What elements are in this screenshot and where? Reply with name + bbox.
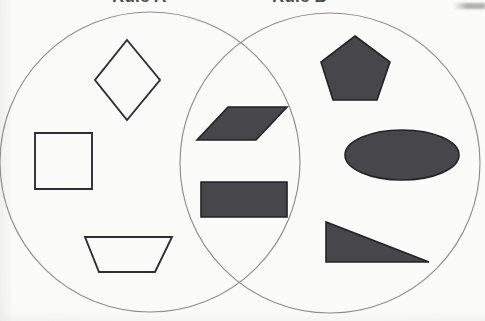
shape-trapezoid[interactable] — [85, 237, 172, 272]
shape-rhombus[interactable] — [95, 40, 160, 120]
shape-parallelogram[interactable] — [197, 107, 287, 140]
shape-right-triangle[interactable] — [326, 222, 429, 262]
shape-rectangle[interactable] — [201, 182, 287, 217]
venn-diagram-canvas — [0, 0, 485, 321]
rule-a-circle[interactable] — [0, 12, 300, 312]
shape-square[interactable] — [35, 133, 92, 189]
shape-pentagon[interactable] — [321, 36, 390, 100]
rule-b-label: Rule B — [272, 0, 327, 5]
venn-diagram-page: Rule A Rule B — [0, 0, 485, 321]
rule-a-label: Rule A — [112, 0, 166, 5]
shape-ellipse[interactable] — [345, 130, 459, 180]
